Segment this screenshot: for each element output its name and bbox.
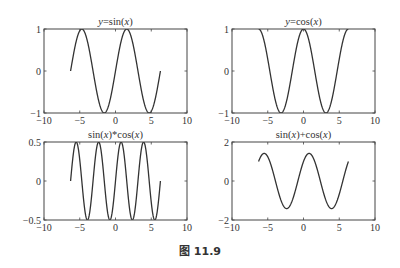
y-tick-label: 1 <box>36 24 41 35</box>
y-tick-label: −1 <box>218 108 229 119</box>
axes-box <box>232 142 375 220</box>
subplot-cos: −10−50510−101y=cos(x) <box>218 16 380 126</box>
x-tick-label: 0 <box>301 115 306 126</box>
y-tick-label: −2 <box>218 215 229 226</box>
data-line <box>259 153 349 208</box>
x-tick-label: −5 <box>262 115 273 126</box>
x-tick-label: 10 <box>182 222 192 233</box>
x-tick-label: 5 <box>149 222 154 233</box>
subplot-sin-plus-cos: −10−50510−202sin(x)+cos(x) <box>218 129 380 233</box>
data-line <box>259 29 349 113</box>
y-tick-label: 2 <box>224 137 229 148</box>
y-tick-label: 0.5 <box>29 137 42 148</box>
x-tick-label: 10 <box>370 222 380 233</box>
axes-box <box>232 29 375 113</box>
subplot-title: y=sin(x) <box>97 16 133 28</box>
x-tick-label: 10 <box>370 115 380 126</box>
y-tick-label: 0 <box>224 66 229 77</box>
subplot-title: y=cos(x) <box>284 16 322 28</box>
y-tick-label: 1 <box>224 24 229 35</box>
x-tick-label: −5 <box>262 222 273 233</box>
y-tick-label: −0.5 <box>23 215 41 226</box>
y-tick-label: −1 <box>30 108 41 119</box>
x-tick-label: 0 <box>113 115 118 126</box>
x-tick-label: 5 <box>337 222 342 233</box>
subplot-title: sin(x)*cos(x) <box>88 129 143 141</box>
y-tick-label: 0 <box>36 176 41 187</box>
data-line <box>71 142 161 220</box>
x-tick-label: 5 <box>337 115 342 126</box>
x-tick-label: −5 <box>74 222 85 233</box>
x-tick-label: 10 <box>182 115 192 126</box>
x-tick-label: 5 <box>149 115 154 126</box>
subplot-figure: −10−50510−101y=sin(x) −10−50510−101y=cos… <box>0 0 400 268</box>
subplot-sin: −10−50510−101y=sin(x) <box>30 16 192 126</box>
data-line <box>71 29 161 113</box>
subplot-sin-times-cos: −10−50510−0.500.5sin(x)*cos(x) <box>23 129 192 233</box>
x-tick-label: −5 <box>74 115 85 126</box>
x-tick-label: 0 <box>301 222 306 233</box>
figure-caption: 图 11.9 <box>0 242 400 258</box>
y-tick-label: 0 <box>36 66 41 77</box>
y-tick-label: 0 <box>224 176 229 187</box>
x-tick-label: 0 <box>113 222 118 233</box>
subplot-title: sin(x)+cos(x) <box>276 129 332 141</box>
